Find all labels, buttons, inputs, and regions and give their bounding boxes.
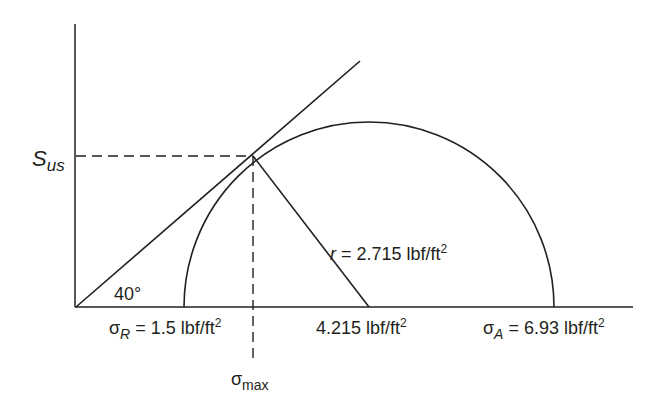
radius-label: r = 2.715 lbf/ft2 xyxy=(330,245,447,263)
sus-main: S xyxy=(32,146,47,171)
sigma-max-label: σmax xyxy=(231,370,269,388)
mohr-circle-diagram xyxy=(0,0,662,405)
center-exp: 2 xyxy=(400,316,407,330)
sus-sub: us xyxy=(47,156,65,175)
radius-eq: = 2.715 lbf/ft xyxy=(336,244,441,264)
angle-label: 40° xyxy=(114,285,141,303)
y-axis-label: Sus xyxy=(32,148,65,170)
failure-envelope-line xyxy=(76,61,360,307)
sigma-r-exp: 2 xyxy=(215,316,222,330)
sigma-r-sub: R xyxy=(120,326,130,342)
radius-line xyxy=(253,156,369,307)
sigma-r-eq: = 1.5 lbf/ft xyxy=(130,318,215,338)
sigma-max-sym: σ xyxy=(231,369,242,389)
mohr-circle xyxy=(184,122,554,307)
sigma-a-sub: A xyxy=(494,326,503,342)
sigma-a-exp: 2 xyxy=(598,316,605,330)
sigma-a-sym: σ xyxy=(483,318,494,338)
center-label: 4.215 lbf/ft2 xyxy=(316,319,407,337)
sigma-max-sub: max xyxy=(242,377,268,393)
center-value: 4.215 lbf/ft xyxy=(316,318,400,338)
radius-exp: 2 xyxy=(441,242,448,256)
sigma-r-sym: σ xyxy=(109,318,120,338)
sigma-a-eq: = 6.93 lbf/ft xyxy=(503,318,598,338)
sigma-r-label: σR = 1.5 lbf/ft2 xyxy=(109,319,221,337)
sigma-a-label: σA = 6.93 lbf/ft2 xyxy=(483,319,605,337)
